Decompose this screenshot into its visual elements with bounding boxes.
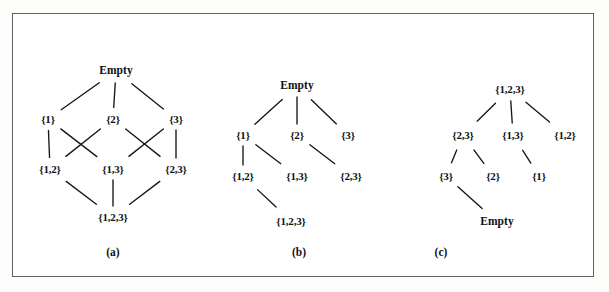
node-empty: Empty [280, 80, 314, 92]
node-s3: {3} [341, 130, 355, 141]
node-s23: {2,3} [165, 164, 186, 175]
diagram-panel-a: Empty{1}{2}{3}{1,2}{1,3}{2,3}{1,2,3}(a) [13, 14, 213, 276]
edge-s3-to-empty [458, 187, 482, 209]
diagram-panel-b: Empty{1}{2}{3}{1,2}{1,3}{2,3}{1,2,3}(b) [203, 14, 408, 276]
edge-s123-to-s23 [477, 103, 495, 121]
diagram-panel-c: {1,2,3}{2,3}{1,3}{1,2}{3}{2}{1}Empty(c) [408, 14, 608, 276]
edge-layer [203, 14, 408, 278]
edge-s1-to-s13 [61, 129, 97, 157]
node-s3: {3} [169, 114, 183, 125]
node-s3: {3} [439, 171, 453, 182]
node-s1: {1} [236, 130, 250, 141]
node-s13: {1,3} [102, 164, 123, 175]
edge-layer [13, 14, 213, 278]
node-s123: {1,2,3} [98, 212, 127, 223]
node-s123: {1,2,3} [276, 216, 305, 227]
edge-s2-to-s23 [126, 129, 160, 156]
node-s12: {1,2} [39, 164, 60, 175]
edge-empty-to-s2 [114, 83, 116, 108]
node-s23: {2,3} [340, 171, 361, 182]
figure-page: Empty{1}{2}{3}{1,2}{1,3}{2,3}{1,2,3}(a) … [0, 0, 609, 292]
node-s2: {2} [290, 130, 304, 141]
figure-frame: Empty{1}{2}{3}{1,2}{1,3}{2,3}{1,2,3}(a) … [12, 13, 594, 277]
edge-s23-to-s3 [451, 150, 456, 163]
node-empty: Empty [99, 65, 133, 77]
node-s2: {2} [106, 114, 120, 125]
edge-s13-to-s1 [523, 150, 531, 163]
node-s23: {2,3} [452, 130, 473, 141]
node-s13: {1,3} [286, 171, 307, 182]
edge-s2-to-s23 [310, 145, 335, 164]
node-s123: {1,2,3} [495, 84, 524, 95]
node-s1: {1} [532, 171, 546, 182]
edge-s1-to-s12 [48, 130, 49, 157]
node-s12: {1,2} [554, 130, 575, 141]
edge-empty-to-s3 [132, 84, 164, 109]
node-s1: {1} [41, 114, 55, 125]
node-s2: {2} [486, 171, 500, 182]
edge-empty-to-s3 [311, 100, 336, 124]
edge-s2-to-s12 [66, 129, 100, 156]
edge-s3-to-s13 [129, 129, 163, 156]
edge-s123-to-s12 [526, 102, 550, 122]
node-empty: Empty [480, 216, 514, 228]
edge-s12-to-s123 [66, 181, 96, 204]
edge-s1-to-s13 [256, 145, 281, 164]
node-s13: {1,3} [502, 130, 523, 141]
panel-caption-b: (b) [292, 246, 306, 258]
edge-empty-to-s1 [255, 99, 282, 124]
edge-s23-to-s2 [474, 150, 484, 163]
edge-s123-to-s13 [511, 101, 512, 123]
edge-empty-to-s1 [61, 83, 99, 110]
edge-s12-to-s123 [258, 190, 277, 207]
edge-layer [408, 14, 608, 278]
node-s12: {1,2} [232, 171, 253, 182]
panel-caption-c: (c) [435, 246, 448, 258]
panel-caption-a: (a) [106, 246, 119, 258]
edge-s23-to-s123 [130, 181, 160, 204]
